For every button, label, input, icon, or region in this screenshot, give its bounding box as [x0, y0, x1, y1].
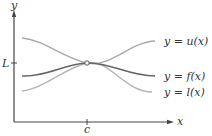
open-circle-point: [85, 61, 89, 65]
x-axis-label: x: [177, 115, 184, 128]
curve-u: [22, 38, 155, 64]
curve-label-u: y = u(x): [163, 35, 208, 48]
y-axis: [12, 10, 16, 122]
curve-label-l: y = l(x): [163, 86, 205, 99]
x-tick-label-c: c: [84, 123, 90, 136]
squeeze-theorem-diagram: y x L c y = u(x) y = f(x) y = l(x): [0, 0, 212, 136]
curve-l: [22, 62, 152, 92]
x-axis-arrow-icon: [167, 120, 174, 124]
y-axis-label: y: [10, 0, 18, 12]
x-axis: [14, 120, 174, 124]
y-tick-label-L: L: [1, 57, 9, 70]
curve-label-f: y = f(x): [163, 70, 205, 83]
diagram-canvas: y x L c y = u(x) y = f(x) y = l(x): [0, 0, 212, 136]
